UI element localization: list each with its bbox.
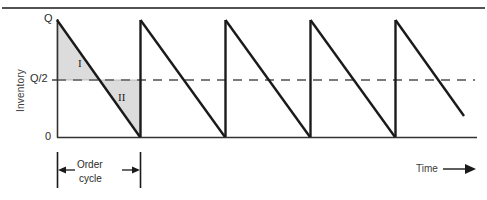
region-one-label: I xyxy=(78,58,82,69)
depletion-line-cycle-2 xyxy=(141,20,226,137)
y-tick-label-q: Q xyxy=(44,13,53,24)
y-tick-label-zero: 0 xyxy=(45,131,51,142)
x-axis-title: Time xyxy=(416,164,438,174)
inventory-sawtooth-figure: Inventory Q Q/2 0 I II Order cycle Time xyxy=(0,0,487,200)
y-tick-label-q-half: Q/2 xyxy=(30,73,48,84)
region-two-label: II xyxy=(118,92,125,103)
order-cycle-right-arrowhead-icon xyxy=(132,167,140,174)
order-cycle-label-line-one: Order xyxy=(77,160,103,170)
chart-canvas xyxy=(0,0,487,200)
y-axis-title: Inventory xyxy=(16,69,26,112)
depletion-line-cycle-3 xyxy=(226,20,311,137)
order-cycle-label-line-two: cycle xyxy=(79,174,102,184)
order-cycle-left-arrowhead-icon xyxy=(58,167,66,174)
time-arrowhead-icon xyxy=(465,164,476,174)
depletion-line-cycle-5 xyxy=(396,20,465,116)
depletion-line-cycle-4 xyxy=(311,20,396,137)
